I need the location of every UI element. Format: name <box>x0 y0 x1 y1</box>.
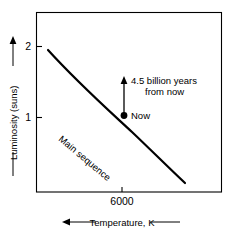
now-marker-dot <box>121 112 128 119</box>
x-axis-label-group: Temperature, K <box>62 217 180 228</box>
hr-diagram-figure: 2 1 6000 Main sequence 4.5 billion years… <box>0 0 238 232</box>
future-annotation-line1: 4.5 billion years <box>131 75 197 86</box>
y-tick-label-2: 2 <box>25 40 31 52</box>
y-axis-label-group: Luminosity (suns) <box>8 36 19 176</box>
x-tick-label-6000: 6000 <box>110 195 134 207</box>
y-tick-label-1: 1 <box>25 111 31 123</box>
main-sequence-label: Main sequence <box>57 133 113 183</box>
x-axis-label: Temperature, K <box>90 217 156 228</box>
future-arrow-head <box>121 76 128 84</box>
y-axis-label: Luminosity (suns) <box>8 86 19 160</box>
now-marker-label: Now <box>131 110 150 121</box>
chart-svg: 2 1 6000 Main sequence 4.5 billion years… <box>0 0 238 232</box>
y-axis-arrow-head <box>10 36 17 44</box>
x-axis-arrow-head <box>62 219 70 226</box>
plot-frame <box>37 13 222 193</box>
future-annotation-line2: from now <box>145 86 184 97</box>
main-sequence-curve <box>48 50 185 183</box>
